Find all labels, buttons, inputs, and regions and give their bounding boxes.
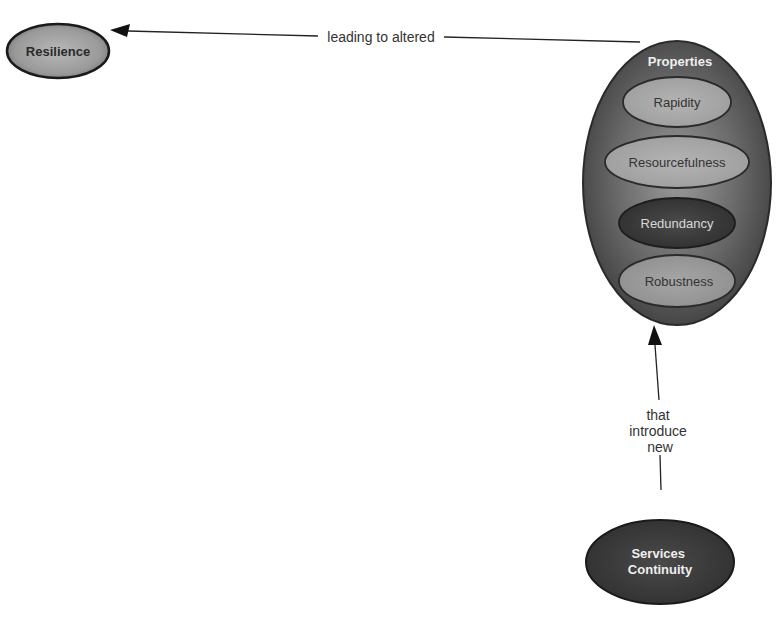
- node-label-redundancy: Redundancy: [641, 216, 714, 231]
- node-resilience[interactable]: Resilience: [7, 24, 109, 78]
- arrowhead-icon: [110, 24, 130, 37]
- node-label-services-continuity: Services Continuity: [628, 546, 693, 577]
- node-label-resourcefulness: Resourcefulness: [629, 155, 726, 170]
- node-resourcefulness[interactable]: Resourcefulness: [605, 136, 749, 188]
- node-label-robustness: Robustness: [645, 274, 714, 289]
- concept-map-canvas: leading to altered that introduce new Re…: [0, 0, 779, 620]
- node-rapidity[interactable]: Rapidity: [623, 77, 731, 127]
- arrowhead-icon: [648, 325, 662, 345]
- edge-label-leading-to-altered: leading to altered: [327, 29, 434, 45]
- node-properties[interactable]: Properties Rapidity Resourcefulness Redu…: [583, 41, 771, 325]
- node-label-rapidity: Rapidity: [654, 95, 701, 110]
- node-label-properties: Properties: [648, 54, 712, 69]
- node-robustness[interactable]: Robustness: [619, 255, 735, 307]
- edge-properties-to-resilience: leading to altered: [110, 24, 640, 45]
- node-services-continuity[interactable]: Services Continuity: [586, 520, 734, 604]
- node-label-resilience: Resilience: [26, 44, 90, 59]
- node-redundancy[interactable]: Redundancy: [619, 198, 735, 248]
- edge-services-to-properties: that introduce new: [629, 325, 690, 490]
- edge-label-that-introduce-new: that introduce new: [629, 407, 690, 455]
